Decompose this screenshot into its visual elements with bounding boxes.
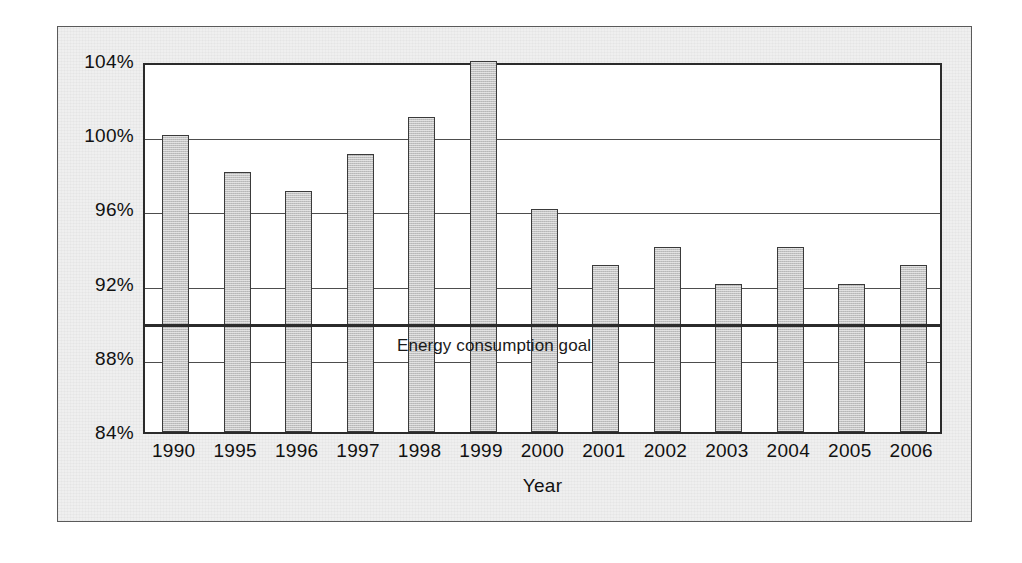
y-tick-label-88: 88%: [95, 348, 134, 370]
x-tick-label-1996: 1996: [266, 440, 327, 462]
x-tick-label-1999: 1999: [450, 440, 511, 462]
goal-line: [145, 324, 940, 327]
bar-2005: [838, 284, 865, 432]
bar-2001: [592, 265, 619, 432]
x-tick-label-2002: 2002: [635, 440, 696, 462]
bar-1999: [470, 61, 497, 432]
plot-area: Energy consumption goal: [143, 63, 942, 434]
y-tick-label-104: 104%: [84, 51, 134, 73]
x-tick-label-2003: 2003: [696, 440, 757, 462]
x-tick-label-1990: 1990: [143, 440, 204, 462]
x-tick-label-2001: 2001: [573, 440, 634, 462]
x-axis-title: Year: [143, 475, 942, 497]
bar-2000: [531, 209, 558, 432]
y-axis-labels: 84%88%92%96%100%104%: [60, 0, 134, 563]
bar-series: [145, 65, 940, 432]
goal-line-label: Energy consumption goal: [397, 336, 591, 356]
bar-1996: [285, 191, 312, 432]
bar-2003: [715, 284, 742, 432]
bar-1990: [162, 135, 189, 432]
bar-1995: [224, 172, 251, 432]
x-tick-label-2000: 2000: [512, 440, 573, 462]
y-tick-label-84: 84%: [95, 422, 134, 444]
chart-figure: 84%88%92%96%100%104% Energy consumption …: [0, 0, 1022, 563]
bar-2002: [654, 247, 681, 433]
bar-2004: [777, 247, 804, 433]
x-tick-label-1997: 1997: [327, 440, 388, 462]
x-tick-label-2005: 2005: [819, 440, 880, 462]
y-tick-label-96: 96%: [95, 199, 134, 221]
x-tick-label-2004: 2004: [758, 440, 819, 462]
bar-1998: [408, 117, 435, 432]
x-tick-label-1998: 1998: [389, 440, 450, 462]
bar-2006: [900, 265, 927, 432]
bar-1997: [347, 154, 374, 432]
y-tick-label-92: 92%: [95, 274, 134, 296]
x-tick-label-1995: 1995: [204, 440, 265, 462]
x-tick-label-2006: 2006: [881, 440, 942, 462]
y-tick-label-100: 100%: [84, 125, 134, 147]
